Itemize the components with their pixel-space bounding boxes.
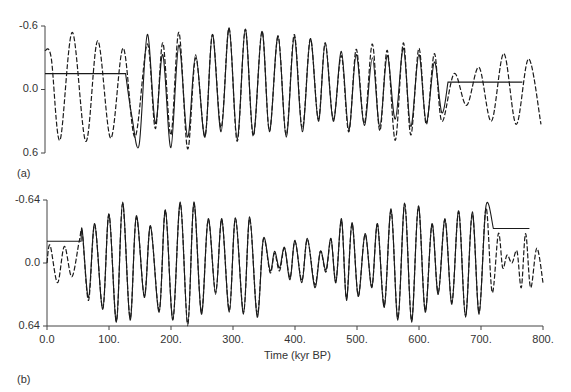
- panel-b-xtick-300: 300.: [222, 333, 243, 345]
- panel-b-xtick-600: 600.: [408, 333, 429, 345]
- panel-b-xtick-400: 400.: [284, 333, 305, 345]
- panel-b-label: (b): [17, 373, 30, 385]
- panel-b-xtick-800: 800.: [532, 333, 553, 345]
- panel-b-xtick-200: 200.: [160, 333, 181, 345]
- panel-b-ytick-top: -0.64: [4, 193, 40, 205]
- panel-b-xtick-500: 500.: [346, 333, 367, 345]
- panel-a-ytick-top: -0.6: [2, 19, 38, 31]
- panel-b-xtick-0: 0.0: [39, 333, 54, 345]
- panel-b-ytick-mid: 0.0: [4, 256, 40, 268]
- panel-a-label: (a): [17, 167, 30, 179]
- panel-b-xtick-700: 700.: [470, 333, 491, 345]
- x-axis-title: Time (kyr BP): [264, 349, 331, 361]
- panel-a-ytick-mid: 0.0: [2, 82, 38, 94]
- panel-b-xtick-100: 100.: [98, 333, 119, 345]
- panel-a-series-dashed: [45, 28, 541, 149]
- figure: -0.6 0.0 0.6 (a) -0.64 0.0 0.64 0.0 100.…: [0, 0, 571, 392]
- panel-a-ytick-bottom: 0.6: [2, 146, 38, 158]
- panel-a-series-solid: [45, 28, 522, 148]
- panel-b-ytick-bottom: 0.64: [4, 319, 40, 331]
